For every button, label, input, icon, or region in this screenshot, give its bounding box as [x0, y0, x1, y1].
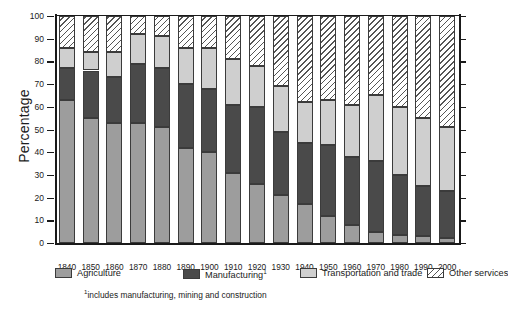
- bar-segment-agri-1840: [59, 100, 75, 243]
- bar-1870[interactable]: [130, 16, 146, 243]
- legend-item-trans[interactable]: Transportation and trade: [300, 268, 422, 278]
- bar-segment-agri-1970: [368, 232, 384, 243]
- bar-segment-trans-1940: [297, 102, 313, 143]
- bar-segment-other-1910: [225, 16, 241, 59]
- bar-1920[interactable]: [249, 16, 265, 243]
- bar-1940[interactable]: [297, 16, 313, 243]
- y-axis-label-90: 90: [35, 34, 44, 43]
- y-tick-right-30: [459, 175, 466, 176]
- bar-1860[interactable]: [106, 16, 122, 243]
- bar-1970[interactable]: [368, 16, 384, 243]
- bar-1910[interactable]: [225, 16, 241, 243]
- bar-segment-mfg-1990: [415, 186, 431, 236]
- bar-segment-other-1890: [178, 16, 194, 48]
- bar-segment-other-1850: [83, 16, 99, 52]
- y-tick-30: [47, 175, 54, 176]
- y-tick-100: [47, 16, 54, 17]
- bar-segment-trans-1870: [130, 34, 146, 64]
- bar-segment-other-1880: [154, 16, 170, 36]
- bar-segment-trans-1850: [83, 52, 99, 70]
- y-tick-90: [47, 39, 54, 40]
- bar-segment-other-1980: [392, 16, 408, 107]
- y-tick-80: [47, 61, 54, 62]
- bar-segment-trans-2000: [439, 127, 455, 191]
- bar-segment-trans-1960: [344, 105, 360, 157]
- bar-segment-mfg-1910: [225, 105, 241, 173]
- bar-segment-mfg-1930: [273, 132, 289, 196]
- bar-segment-trans-1900: [201, 48, 217, 89]
- bar-1840[interactable]: [59, 16, 75, 243]
- bar-segment-trans-1950: [320, 100, 336, 145]
- footnote-text: includes manufacturing, mining and const…: [87, 290, 266, 300]
- legend-label-mfg: Manufacturing1: [205, 268, 267, 280]
- y-tick-right-20: [459, 198, 466, 199]
- bar-segment-mfg-1890: [178, 84, 194, 148]
- bar-1890[interactable]: [178, 16, 194, 243]
- bar-segment-other-2000: [439, 16, 455, 127]
- y-axis-label-30: 30: [35, 171, 44, 180]
- legend-label-other: Other services: [449, 268, 508, 278]
- y-axis-label-0: 0: [39, 239, 44, 248]
- bar-1980[interactable]: [392, 16, 408, 243]
- y-axis-label-50: 50: [35, 125, 44, 134]
- legend-swatch-other: [427, 268, 444, 278]
- bar-segment-mfg-1950: [320, 145, 336, 215]
- y-axis-title: Percentage: [16, 56, 32, 196]
- legend-label-trans: Transportation and trade: [322, 268, 422, 278]
- bar-segment-other-1990: [415, 16, 431, 118]
- bar-segment-agri-1870: [130, 123, 146, 243]
- bar-segment-other-1870: [130, 16, 146, 34]
- y-axis-label-40: 40: [35, 148, 44, 157]
- bar-segment-trans-1930: [273, 86, 289, 131]
- bar-1900[interactable]: [201, 16, 217, 243]
- bar-segment-trans-1880: [154, 36, 170, 68]
- bar-segment-mfg-1980: [392, 175, 408, 235]
- y-tick-70: [47, 84, 54, 85]
- bar-segment-trans-1910: [225, 59, 241, 104]
- bar-segment-other-1950: [320, 16, 336, 100]
- bar-segment-agri-1900: [201, 152, 217, 243]
- legend-swatch-agri: [55, 268, 72, 278]
- y-tick-10: [47, 220, 54, 221]
- y-axis-label-20: 20: [35, 193, 44, 202]
- x-axis-line: [55, 243, 461, 245]
- bar-segment-trans-1840: [59, 48, 75, 68]
- bar-segment-other-1940: [297, 16, 313, 102]
- bar-segment-mfg-1860: [106, 77, 122, 122]
- bar-1850[interactable]: [83, 16, 99, 243]
- legend-item-agri[interactable]: Agriculture: [55, 268, 121, 278]
- bar-segment-other-1920: [249, 16, 265, 66]
- bar-segment-other-1840: [59, 16, 75, 48]
- bar-segment-agri-1980: [392, 235, 408, 243]
- bar-segment-mfg-1840: [59, 68, 75, 100]
- bar-1960[interactable]: [344, 16, 360, 243]
- legend-item-other[interactable]: Other services: [427, 268, 508, 278]
- chart-legend: AgricultureManufacturing1Transportation …: [55, 268, 465, 282]
- bar-segment-other-1900: [201, 16, 217, 48]
- y-tick-50: [47, 130, 54, 131]
- bar-1880[interactable]: [154, 16, 170, 243]
- legend-label-agri: Agriculture: [77, 268, 121, 278]
- bar-1950[interactable]: [320, 16, 336, 243]
- y-axis-label-10: 10: [35, 216, 44, 225]
- bar-1930[interactable]: [273, 16, 289, 243]
- y-tick-right-90: [459, 39, 466, 40]
- bar-segment-other-1860: [106, 16, 122, 52]
- legend-sup-mfg: 1: [263, 268, 267, 275]
- legend-item-mfg[interactable]: Manufacturing1: [183, 268, 267, 280]
- bar-segment-agri-1890: [178, 148, 194, 243]
- bar-2000[interactable]: [439, 16, 455, 243]
- bar-segment-mfg-1940: [297, 143, 313, 204]
- bar-segment-trans-1980: [392, 107, 408, 175]
- bar-segment-agri-1930: [273, 195, 289, 243]
- bar-segment-trans-1990: [415, 118, 431, 186]
- chart-footnote: 1includes manufacturing, mining and cons…: [84, 288, 267, 300]
- bar-segment-mfg-1970: [368, 161, 384, 231]
- y-tick-right-100: [459, 16, 466, 17]
- legend-swatch-mfg: [183, 269, 200, 279]
- y-tick-right-50: [459, 130, 466, 131]
- y-tick-right-0: [459, 243, 466, 244]
- y-axis-label-60: 60: [35, 103, 44, 112]
- bar-1990[interactable]: [415, 16, 431, 243]
